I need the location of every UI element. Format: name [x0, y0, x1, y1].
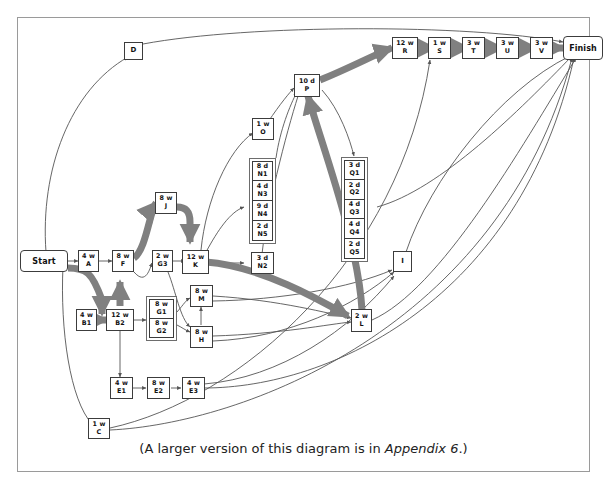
node-q4[interactable]: 4 d Q4 — [344, 219, 365, 239]
critical-start-b1 — [68, 268, 102, 314]
node-m[interactable]: 8 w M — [190, 285, 213, 307]
node-start-label: Start — [32, 257, 55, 266]
node-b2[interactable]: 12 w B2 — [106, 309, 134, 331]
caption-appendix-reference: Appendix 6 — [385, 441, 459, 456]
node-a[interactable]: 4 w A — [78, 250, 99, 272]
node-e2-label: E2 — [154, 388, 163, 396]
node-n3-label: N3 — [258, 191, 268, 199]
node-a-label: A — [86, 261, 91, 269]
node-r[interactable]: 12 w R — [392, 37, 418, 59]
node-e3[interactable]: 4 w E3 — [182, 377, 205, 399]
node-u-label: U — [505, 48, 510, 56]
node-q5[interactable]: 2 d Q5 — [344, 239, 365, 259]
node-n2[interactable]: 3 d N2 — [251, 252, 274, 274]
node-g1[interactable]: 8 w G1 — [149, 299, 174, 319]
node-f-label: F — [121, 261, 125, 269]
critical-p-r — [320, 48, 392, 80]
node-t[interactable]: 3 w T — [462, 37, 485, 59]
node-j-label: J — [165, 203, 167, 211]
node-q2[interactable]: 2 d Q2 — [344, 180, 365, 200]
node-e3-label: E3 — [189, 388, 198, 396]
group-n: 8 d N1 4 d N3 9 d N4 2 d N5 — [249, 158, 276, 244]
edge-layer — [0, 0, 607, 483]
node-q1[interactable]: 3 d Q1 — [344, 160, 365, 180]
node-l[interactable]: 2 w L — [351, 309, 372, 332]
node-n4[interactable]: 9 d N4 — [252, 201, 273, 221]
node-d[interactable]: D — [124, 42, 143, 60]
caption-suffix: .) — [458, 441, 467, 456]
node-q5-label: Q5 — [349, 249, 359, 257]
node-s-label: S — [437, 48, 442, 56]
node-q2-label: Q2 — [349, 189, 359, 197]
node-i[interactable]: I — [393, 251, 412, 272]
edge-start-d — [45, 57, 128, 252]
node-q1-label: Q1 — [349, 170, 359, 178]
diagram-page: Start Finish D I 4 w A 4 w B1 12 w B2 1 … — [0, 0, 607, 483]
edge-start-c — [62, 266, 92, 424]
node-k-label: K — [193, 262, 198, 270]
edge-l-finish — [372, 58, 576, 320]
node-n1-label: N1 — [258, 171, 268, 179]
node-c[interactable]: 1 w C — [88, 418, 110, 439]
node-finish-label: Finish — [569, 44, 597, 53]
node-m-label: M — [198, 296, 204, 304]
edge-f-g3 — [134, 263, 152, 277]
critical-j-k — [177, 207, 190, 242]
node-n5-label: N5 — [258, 231, 268, 239]
group-q: 3 d Q1 2 d Q2 4 d Q3 4 d Q4 2 d Q5 — [341, 157, 368, 262]
node-q3-label: Q3 — [349, 209, 359, 217]
node-n3[interactable]: 4 d N3 — [252, 181, 273, 201]
node-c-label: C — [97, 429, 102, 437]
edge-n1-p — [276, 92, 297, 158]
edge-q3-finish — [377, 56, 572, 207]
node-b1[interactable]: 4 w B1 — [76, 309, 97, 331]
node-h[interactable]: 8 w H — [190, 326, 213, 348]
edge-m-i — [213, 270, 392, 301]
node-o[interactable]: 1 w O — [252, 118, 274, 140]
node-b1-label: B1 — [82, 320, 92, 328]
edge-g2-h — [177, 325, 190, 332]
edge-k-n1 — [206, 207, 244, 252]
node-t-label: T — [471, 48, 475, 56]
node-n1[interactable]: 8 d N1 — [252, 161, 273, 181]
node-g1-label: G1 — [157, 309, 167, 317]
node-s[interactable]: 1 w S — [428, 37, 451, 59]
node-p-label: P — [305, 86, 310, 94]
node-e2[interactable]: 8 w E2 — [147, 377, 170, 399]
node-g2-label: G2 — [157, 328, 167, 336]
node-g2[interactable]: 8 w G2 — [149, 319, 174, 339]
node-v-label: V — [539, 48, 544, 56]
node-e1-label: E1 — [117, 388, 126, 396]
node-l-label: L — [359, 321, 363, 329]
node-j[interactable]: 8 w J — [155, 192, 177, 214]
diagram-caption: (A larger version of this diagram is in … — [17, 441, 590, 456]
node-e1[interactable]: 4 w E1 — [110, 377, 133, 399]
node-p[interactable]: 10 d P — [294, 74, 320, 97]
node-u[interactable]: 3 w U — [496, 37, 519, 59]
node-o-label: O — [260, 129, 266, 137]
node-i-label: I — [401, 258, 404, 266]
node-h-label: H — [199, 337, 204, 345]
group-g: 8 w G1 8 w G2 — [146, 296, 177, 341]
edge-o-p — [268, 88, 294, 122]
edge-k-o — [201, 133, 253, 250]
node-g3[interactable]: 2 w G3 — [152, 250, 173, 272]
node-d-label: D — [131, 47, 137, 55]
node-b2-label: B2 — [115, 320, 125, 328]
node-q3[interactable]: 4 d Q3 — [344, 200, 365, 220]
edge-i-finish — [406, 56, 570, 252]
node-f[interactable]: 8 w F — [112, 250, 134, 272]
node-n5[interactable]: 2 d N5 — [252, 221, 273, 241]
node-k[interactable]: 12 w K — [182, 250, 209, 274]
node-q4-label: Q4 — [349, 229, 359, 237]
node-r-label: R — [402, 48, 407, 56]
node-n4-label: N4 — [258, 211, 268, 219]
edge-c-s — [110, 60, 430, 428]
node-g3-label: G3 — [158, 261, 168, 269]
node-v[interactable]: 3 w V — [530, 37, 553, 59]
node-finish[interactable]: Finish — [563, 36, 603, 60]
caption-prefix: (A larger version of this diagram is in — [139, 441, 384, 456]
node-n2-label: N2 — [258, 263, 268, 271]
node-start[interactable]: Start — [20, 250, 68, 272]
